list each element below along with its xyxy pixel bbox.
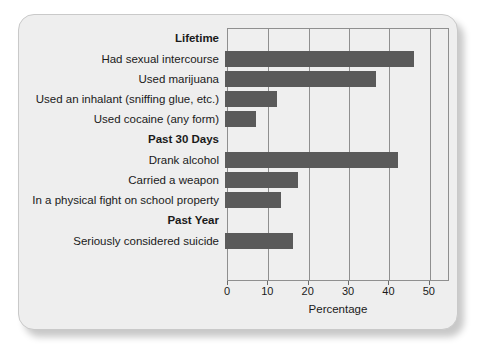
x-tick-label: 50 [423,285,435,297]
bar-row: Used marijuana [19,69,459,89]
plot-wrapper: LifetimeHad sexual intercourseUsed marij… [19,15,459,331]
bar [225,152,398,168]
bar-row: Had sexual intercourse [19,49,459,69]
group-header-spacer [224,210,459,230]
bar-category-label: Seriously considered suicide [19,235,224,248]
group-header-row: Lifetime [19,28,459,48]
group-header-row: Past Year [19,210,459,230]
group-label: Past 30 Days [19,133,224,146]
bar-row: Used an inhalant (sniffing glue, etc.) [19,89,459,109]
bar-category-label: Used an inhalant (sniffing glue, etc.) [19,93,224,106]
bar [225,71,376,87]
group-header-spacer [224,129,459,149]
group-label: Lifetime [19,32,224,45]
x-axis-title: Percentage [227,303,449,315]
bar-cell [224,170,459,190]
bar [225,172,298,188]
bar-row: Carried a weapon [19,170,459,190]
bar [225,192,281,208]
bar-row: Used cocaine (any form) [19,109,459,129]
bar-row: Seriously considered suicide [19,231,459,251]
bar-category-label: In a physical fight on school property [19,194,224,207]
group-label: Past Year [19,214,224,227]
bar-cell [224,190,459,210]
bar-category-label: Carried a weapon [19,174,224,187]
x-tick-label: 20 [302,285,314,297]
bar-cell [224,69,459,89]
bar [225,233,293,249]
x-axis-ticks: 01020304050 [19,281,459,299]
group-header-row: Past 30 Days [19,129,459,149]
x-tick-label: 30 [342,285,354,297]
bar-rows: LifetimeHad sexual intercourseUsed marij… [19,28,459,281]
chart-panel: LifetimeHad sexual intercourseUsed marij… [18,14,458,330]
bar-category-label: Drank alcohol [19,154,224,167]
bar-cell [224,150,459,170]
bar [225,111,256,127]
group-header-spacer [224,28,459,48]
bar-cell [224,231,459,251]
bar-cell [224,89,459,109]
bar [225,51,414,67]
bar-category-label: Used marijuana [19,73,224,86]
bar [225,91,277,107]
bar-category-label: Had sexual intercourse [19,53,224,66]
x-tick-label: 10 [261,285,273,297]
x-tick-label: 40 [382,285,394,297]
bar-cell [224,109,459,129]
bar-category-label: Used cocaine (any form) [19,113,224,126]
bar-row: Drank alcohol [19,150,459,170]
bar-row: In a physical fight on school property [19,190,459,210]
x-tick-label: 0 [224,285,230,297]
bar-cell [224,49,459,69]
